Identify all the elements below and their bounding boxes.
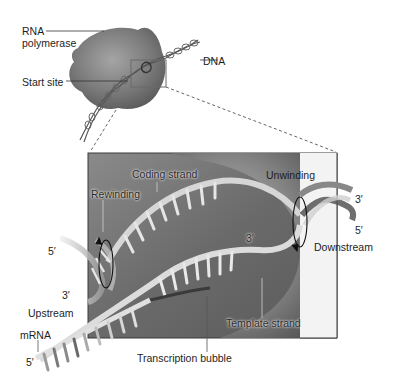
projection-line-left [90,110,116,152]
label-unwinding: Unwinding [266,169,315,181]
label-upstream: Upstream [28,307,74,319]
label-rna-polymerase-line1: RNA [22,25,44,37]
label-template-strand: Template strand [226,317,301,329]
label-start-site: Start site [22,76,63,88]
projection-line-right [166,87,336,152]
label-downstream: Downstream [314,241,373,253]
label-mrna-5prime: 5′ [26,356,34,368]
label-end-right-3prime: 3′ [355,193,363,205]
label-rewinding: Rewinding [91,188,140,200]
label-end-left-3prime: 3′ [62,289,70,301]
label-coding-strand: Coding strand [132,168,197,180]
label-rna-3prime: 3′ [246,232,254,244]
label-end-right-5prime: 5′ [355,224,363,236]
label-rna-polymerase-line2: polymerase [22,37,76,49]
label-mrna: mRNA [20,329,51,341]
label-transcription-bubble: Transcription bubble [137,352,232,364]
label-end-left-5prime: 5′ [48,245,56,257]
label-dna: DNA [203,55,225,67]
transcription-diagram-art [0,0,394,385]
